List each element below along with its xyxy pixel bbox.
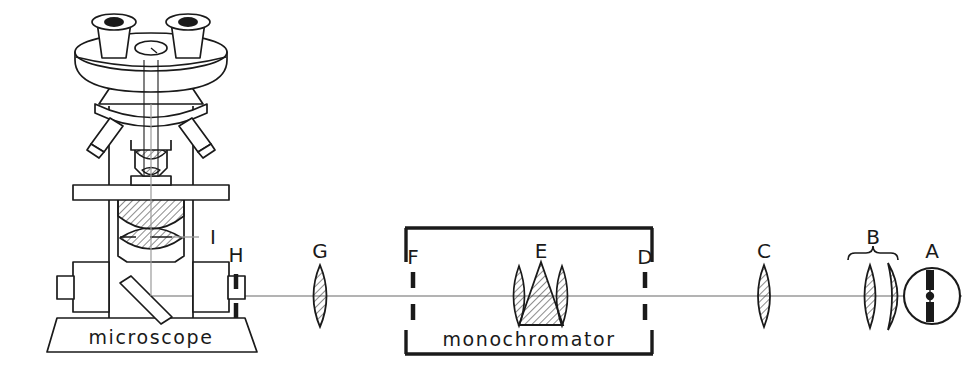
label-F: F (407, 245, 419, 269)
optical-setup-figure: microscope H G F D (0, 0, 972, 386)
arc-lamp-A (904, 268, 960, 324)
label-D: D (637, 245, 652, 269)
head-dial (135, 41, 167, 55)
label-I: I (210, 225, 216, 249)
label-H: H (228, 243, 243, 267)
microscope-caption: microscope (89, 326, 214, 348)
diagram-canvas: microscope H G F D (0, 0, 972, 386)
label-E: E (535, 239, 548, 263)
label-G: G (312, 239, 328, 263)
label-B: B (866, 225, 880, 249)
monochromator-caption: monochromator (442, 328, 615, 350)
prism-and-lenses-E (514, 262, 568, 326)
label-C: C (757, 239, 771, 263)
label-A: A (925, 239, 939, 263)
